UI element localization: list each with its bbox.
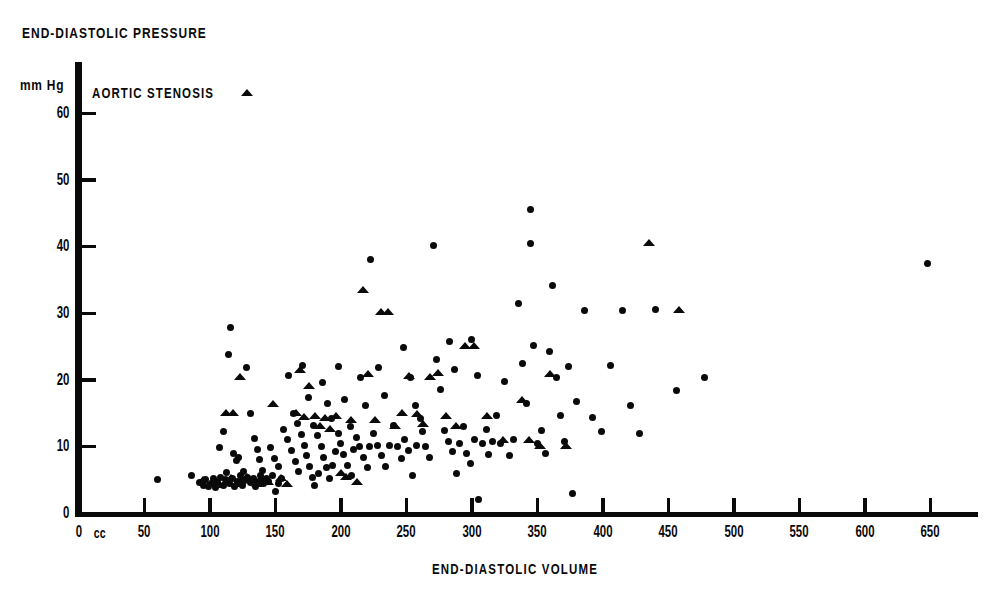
x-axis-tick [798, 498, 802, 513]
data-point-dot [243, 364, 250, 371]
data-point-dot [301, 442, 308, 449]
data-point-dot [453, 470, 460, 477]
x-axis-tick [208, 498, 212, 513]
data-point-dot [451, 366, 458, 373]
data-point-dot [527, 206, 534, 213]
data-point-triangle [643, 239, 655, 246]
x-axis-tick [536, 498, 540, 513]
data-point-dot [337, 440, 344, 447]
data-point-dot [329, 462, 336, 469]
data-point-dot [607, 362, 614, 369]
data-point-dot [267, 444, 274, 451]
data-point-dot [326, 475, 333, 482]
data-point-dot [573, 398, 580, 405]
x-axis-tick-label: 50 [122, 523, 166, 541]
x-axis-tick-label: 450 [646, 523, 690, 541]
data-point-dot [557, 412, 564, 419]
data-point-dot [627, 402, 634, 409]
data-point-dot [256, 456, 263, 463]
data-point-triangle [324, 425, 336, 432]
data-point-dot [362, 402, 369, 409]
data-point-triangle [411, 410, 423, 417]
data-point-dot [188, 472, 195, 479]
data-point-triangle [432, 369, 444, 376]
x-axis-tick [601, 498, 605, 513]
data-point-dot [154, 476, 161, 483]
y-axis-tick-label: 10 [47, 437, 70, 455]
data-point-dot [370, 430, 377, 437]
data-point-dot [569, 490, 576, 497]
data-point-dot [449, 448, 456, 455]
data-point-triangle [227, 409, 239, 416]
data-point-dot [340, 451, 347, 458]
y-axis-tick [82, 378, 96, 382]
data-point-dot [382, 463, 389, 470]
data-point-dot [441, 427, 448, 434]
data-point-dot [335, 363, 342, 370]
y-axis-tick [82, 178, 96, 182]
x-axis-tick [863, 498, 867, 513]
data-point-dot [360, 454, 367, 461]
data-point-dot [311, 482, 318, 489]
data-point-triangle [497, 436, 509, 443]
data-point-triangle [403, 372, 415, 379]
data-point-dot [324, 400, 331, 407]
data-point-dot [598, 428, 605, 435]
data-point-triangle [369, 416, 381, 423]
data-point-dot [216, 444, 223, 451]
data-point-dot [288, 447, 295, 454]
y-axis-tick-label: 0 [47, 504, 70, 522]
data-point-dot [581, 307, 588, 314]
x-axis-tick-label: 150 [253, 523, 297, 541]
data-point-dot [280, 426, 287, 433]
y-axis-tick-label: 40 [47, 237, 70, 255]
data-point-triangle [450, 422, 462, 429]
data-point-dot [506, 452, 513, 459]
x-axis-tick [405, 498, 409, 513]
data-point-dot [437, 386, 444, 393]
data-point-dot [489, 438, 496, 445]
data-point-dot [446, 338, 453, 345]
data-point-dot [332, 448, 339, 455]
data-point-dot [285, 372, 292, 379]
y-axis-tick [82, 312, 96, 316]
data-point-triangle [330, 412, 342, 419]
data-point-dot [294, 420, 301, 427]
data-point-triangle [345, 416, 357, 423]
data-point-dot [530, 342, 537, 349]
x-axis-tick [274, 498, 278, 513]
data-point-triangle [544, 370, 556, 377]
data-point-dot [303, 452, 310, 459]
data-point-dot [636, 430, 643, 437]
x-axis-tick-label: 550 [777, 523, 821, 541]
data-point-triangle [362, 370, 374, 377]
data-point-dot [409, 472, 416, 479]
data-point-dot [479, 440, 486, 447]
data-point-dot [413, 442, 420, 449]
y-axis-tick-label: 60 [47, 104, 70, 122]
data-point-triangle [262, 478, 274, 485]
data-point-dot [254, 446, 261, 453]
data-point-dot [220, 428, 227, 435]
data-point-triangle [516, 396, 528, 403]
data-point-dot [341, 396, 348, 403]
data-point-dot [295, 468, 302, 475]
data-point-triangle [481, 412, 493, 419]
x-axis-tick [732, 498, 736, 513]
data-point-dot [619, 307, 626, 314]
data-point-dot [347, 423, 354, 430]
data-point-triangle [673, 306, 685, 313]
y-axis-tick [82, 245, 96, 249]
data-point-dot [305, 394, 312, 401]
data-point-triangle [303, 382, 315, 389]
data-point-dot [306, 463, 313, 470]
data-point-dot [356, 443, 363, 450]
data-point-dot [394, 443, 401, 450]
data-point-dot [367, 256, 374, 263]
data-point-triangle [396, 409, 408, 416]
y-axis-tick-label: 30 [47, 304, 70, 322]
y-axis-line [75, 62, 82, 517]
data-point-dot [485, 451, 492, 458]
data-point-dot [549, 282, 556, 289]
x-axis-tick-label: 250 [384, 523, 428, 541]
